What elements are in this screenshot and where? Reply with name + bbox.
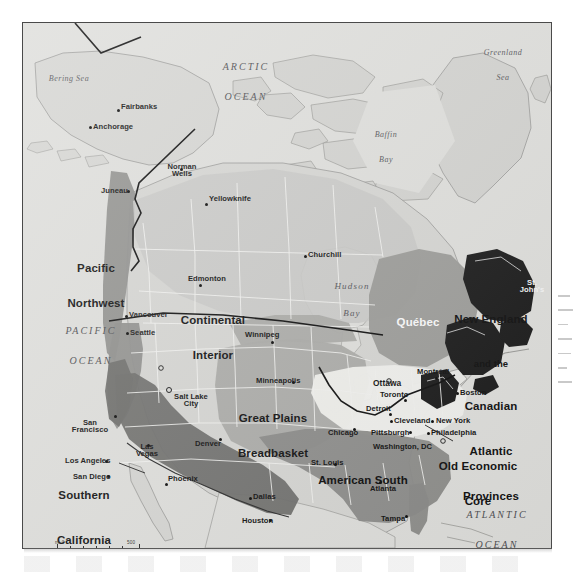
city-label-seattle[interactable]: Seattle <box>130 329 155 337</box>
city-dot-phoenix <box>165 483 168 486</box>
city-dot-houston <box>269 519 272 522</box>
city-dot-montreal <box>435 377 438 380</box>
city-label-st-louis[interactable]: St. Louis <box>311 459 344 467</box>
city-label-fairbanks[interactable]: Fairbanks <box>121 103 157 111</box>
city-dot-san-francisco <box>114 415 117 418</box>
city-label-denver[interactable]: Denver <box>195 440 221 448</box>
city-dot-salt-lake-city <box>166 387 172 393</box>
city-dot-edmonton <box>199 284 202 287</box>
city-label-edmonton[interactable]: Edmonton <box>188 275 226 283</box>
city-label-new-york[interactable]: New York <box>436 417 470 425</box>
city-label-washington-dc[interactable]: Washington, DC <box>373 443 432 451</box>
label-greenland-sea: Greenland Sea <box>465 33 541 99</box>
city-dot-chicago <box>353 428 356 431</box>
city-label-salt-lake-city[interactable]: Salt LakeCity <box>169 377 213 424</box>
city-dot-st-louis <box>334 463 337 466</box>
city-label-st-johns[interactable]: St.John's <box>518 263 546 310</box>
label-hudson-bay: Hudson Bay <box>323 263 381 337</box>
city-label-atlanta[interactable]: Atlanta <box>370 485 396 493</box>
map-canvas[interactable]: ARCTIC OCEAN PACIFIC OCEAN ATLANTIC OCEA… <box>22 22 552 549</box>
region-label-new-england-atlantic[interactable]: New England and the Canadian Atlantic Pr… <box>435 281 547 536</box>
city-dot-anchorage <box>89 126 92 129</box>
city-dot-pittsburgh <box>409 431 412 434</box>
city-dot-los-angeles <box>105 460 108 463</box>
label-arctic-ocean: ARCTIC OCEAN <box>191 41 301 123</box>
region-label-pacific-northwest[interactable]: Pacific Northwest <box>53 239 139 334</box>
city-label-juneau[interactable]: Juneau <box>101 187 128 195</box>
city-dot-norman-wells <box>180 168 183 171</box>
city-label-yellowknife[interactable]: Yellowknife <box>209 195 251 203</box>
city-label-dallas[interactable]: Dallas <box>253 493 276 501</box>
city-dot-las-vegas <box>147 444 150 447</box>
city-label-montreal[interactable]: Montréal <box>417 368 449 376</box>
city-dot-winnipeg <box>271 341 274 344</box>
city-dot-yellowknife <box>205 203 208 206</box>
city-dot-tampa <box>405 515 408 518</box>
label-baffin-bay: Baffin Bay <box>357 115 415 181</box>
city-dot-boston <box>456 392 459 395</box>
city-label-pittsburgh[interactable]: Pittsburgh <box>371 429 409 437</box>
city-label-tampa[interactable]: Tampa <box>381 515 405 523</box>
region-label-southern-california-southwest[interactable]: Southern California and the Southwest <box>29 457 139 549</box>
city-label-cleveland[interactable]: Cleveland <box>394 417 430 425</box>
city-dot-dallas <box>249 497 252 500</box>
city-dot-vancouver <box>125 315 128 318</box>
map-page: ARCTIC OCEAN PACIFIC OCEAN ATLANTIC OCEA… <box>0 0 578 582</box>
margin-text-column <box>558 295 576 383</box>
city-dot-new-york <box>431 420 434 423</box>
city-dot-philadelphia <box>427 432 430 435</box>
city-dot-minneapolis <box>292 381 295 384</box>
page-bleed-row <box>24 556 544 572</box>
city-label-phoenix[interactable]: Phoenix <box>168 475 198 483</box>
scale-miles-max: 500 <box>127 540 135 545</box>
city-dot-denver <box>219 438 222 441</box>
plate-shadow <box>24 548 552 553</box>
city-label-san-diego[interactable]: San Diego <box>73 473 111 481</box>
city-dot-toronto <box>404 399 407 402</box>
city-label-philadelphia[interactable]: Philadelphia <box>431 429 476 437</box>
city-dot-detroit <box>389 413 392 416</box>
city-dot-churchill <box>304 255 307 258</box>
city-dot-fairbanks <box>117 109 120 112</box>
city-label-toronto[interactable]: Toronto <box>380 391 408 399</box>
city-label-vancouver[interactable]: Vancouver <box>129 311 168 319</box>
city-label-san-francisco[interactable]: SanFrancisco <box>66 403 114 450</box>
city-label-las-vegas[interactable]: LasVegas <box>131 427 163 474</box>
city-label-churchill[interactable]: Churchill <box>308 251 341 259</box>
city-label-detroit[interactable]: Detroit <box>366 405 391 413</box>
city-label-los-angeles[interactable]: Los Angeles <box>65 457 110 465</box>
city-dot-juneau <box>127 190 130 193</box>
city-label-winnipeg[interactable]: Winnipeg <box>245 331 280 339</box>
city-label-anchorage[interactable]: Anchorage <box>93 123 133 131</box>
label-bering-sea: Bering Sea <box>33 59 105 100</box>
city-dot-san-diego <box>107 475 110 478</box>
city-label-ottawa[interactable]: Ottawa <box>373 379 401 388</box>
city-dot-cleveland <box>390 420 393 423</box>
city-dot-seattle <box>126 332 129 335</box>
city-label-boston[interactable]: Boston <box>460 389 486 397</box>
city-dot-atlanta <box>379 481 382 484</box>
